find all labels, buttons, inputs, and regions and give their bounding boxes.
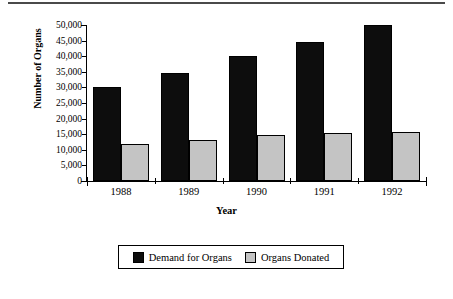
x-axis-tick-label: 1989 — [154, 186, 224, 197]
y-axis-tick-label: 5,000 — [34, 160, 82, 170]
y-axis-tick-label: 25,000 — [34, 98, 82, 108]
legend-swatch-donated-icon — [245, 252, 256, 263]
bar-organs-donated — [324, 133, 352, 181]
y-axis-tick-mark — [82, 134, 87, 135]
x-axis-tick-label: 1992 — [357, 186, 427, 197]
y-axis-tick-mark — [82, 56, 87, 57]
bar-group — [87, 25, 155, 181]
y-axis-tick-label: 0 — [34, 176, 82, 186]
y-axis-tick-label: 50,000 — [34, 20, 82, 30]
legend-label-demand: Demand for Organs — [149, 252, 232, 263]
chart-legend: Demand for Organs Organs Donated — [118, 245, 344, 269]
bar-organs-donated — [392, 132, 420, 181]
y-axis-tick-label: 45,000 — [34, 36, 82, 46]
y-axis-tick-mark — [81, 25, 87, 26]
x-axis-end-cap — [426, 177, 427, 186]
y-axis-tick-mark — [82, 41, 87, 42]
y-axis-tick-label: 15,000 — [34, 129, 82, 139]
legend-swatch-demand-icon — [133, 252, 144, 263]
x-axis-tick-mark — [223, 178, 224, 184]
y-axis-tick-mark — [82, 103, 87, 104]
bar-demand-for-organs — [161, 73, 189, 181]
y-axis-tick-label: 20,000 — [34, 114, 82, 124]
x-axis-tick-label: 1991 — [289, 186, 359, 197]
y-axis-tick-mark — [82, 119, 87, 120]
legend-item-donated: Organs Donated — [245, 252, 329, 263]
bar-group — [290, 25, 358, 181]
x-axis-tick-mark — [290, 178, 291, 184]
x-axis-tick-mark — [155, 178, 156, 184]
x-axis-line — [86, 181, 426, 182]
y-axis-tick-labels: 05,00010,00015,00020,00025,00030,00035,0… — [34, 20, 82, 186]
bar-organs-donated — [121, 144, 149, 181]
y-axis-tick-mark — [82, 150, 87, 151]
bar-demand-for-organs — [296, 42, 324, 181]
x-axis-tick-label: 1988 — [86, 186, 156, 197]
bar-organs-donated — [257, 135, 285, 181]
y-axis-tick-label: 10,000 — [34, 145, 82, 155]
y-axis-tick-mark — [82, 87, 87, 88]
bar-demand-for-organs — [229, 56, 257, 181]
bar-demand-for-organs — [364, 25, 392, 181]
y-axis-tick-label: 35,000 — [34, 67, 82, 77]
bar-group — [223, 25, 291, 181]
bar-organs-donated — [189, 140, 217, 181]
y-axis-tick-mark — [82, 72, 87, 73]
x-axis-tick-mark — [358, 178, 359, 184]
legend-item-demand: Demand for Organs — [133, 252, 232, 263]
bar-chart: Number of Organs 05,00010,00015,00020,00… — [0, 0, 453, 299]
bar-group — [358, 25, 426, 181]
y-axis-tick-label: 30,000 — [34, 82, 82, 92]
legend-label-donated: Organs Donated — [261, 252, 329, 263]
plot-area — [87, 25, 426, 181]
bar-demand-for-organs — [93, 87, 121, 181]
x-axis-title: Year — [0, 205, 453, 216]
x-axis-tick-label: 1990 — [222, 186, 292, 197]
x-axis-end-cap — [87, 177, 88, 186]
y-axis-tick-mark — [82, 165, 87, 166]
y-axis-tick-label: 40,000 — [34, 51, 82, 61]
bar-group — [155, 25, 223, 181]
